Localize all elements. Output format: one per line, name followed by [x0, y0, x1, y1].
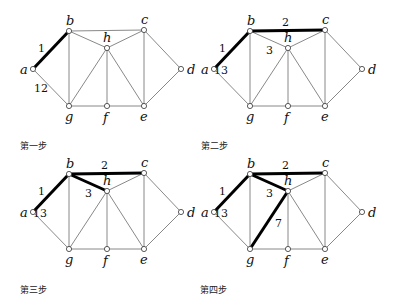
node-e	[322, 246, 327, 251]
edge-c-h	[288, 173, 325, 191]
edge-weight-label: 3	[266, 187, 273, 200]
step-caption-4: 第四步	[200, 283, 227, 296]
node-d	[359, 209, 364, 214]
edge-weight-label: 2	[282, 159, 289, 172]
node-h	[285, 188, 290, 193]
node-label-b: b	[247, 156, 255, 171]
node-g	[247, 246, 252, 251]
node-label-e: e	[321, 252, 329, 267]
node-f	[285, 246, 290, 251]
node-label-g: g	[246, 252, 254, 267]
edge-h-e	[288, 191, 325, 249]
node-c	[322, 170, 327, 175]
edge-weight-label: 13	[214, 207, 228, 220]
node-b	[247, 171, 252, 176]
node-label-f: f	[283, 253, 291, 268]
edge-weight-label: 1	[219, 185, 226, 198]
node-label-a: a	[201, 205, 209, 220]
edge-c-d	[325, 173, 362, 212]
node-label-c: c	[322, 155, 330, 170]
edge-weight-label: 7	[275, 217, 282, 230]
node-label-d: d	[368, 205, 376, 220]
node-label-h: h	[284, 173, 292, 188]
graph-step-4: abcdefgh123137	[0, 0, 400, 307]
edge-d-e	[325, 212, 362, 249]
